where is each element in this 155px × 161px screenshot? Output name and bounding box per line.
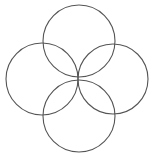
rosette-diagram	[0, 0, 155, 161]
figure-canvas	[0, 0, 155, 161]
